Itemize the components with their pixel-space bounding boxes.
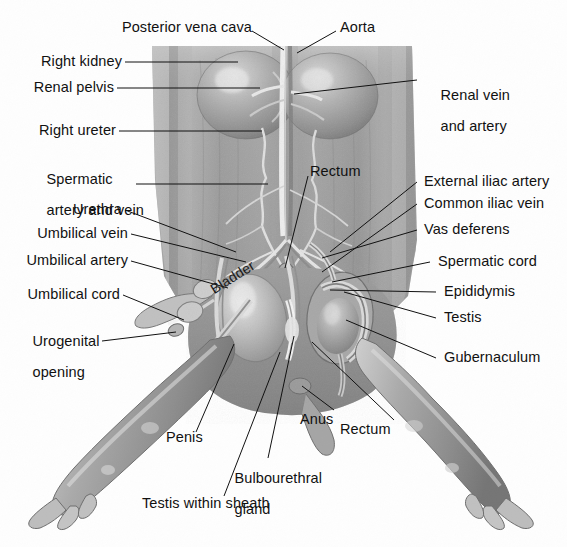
label-umbilical-cord: Umbilical cord (0, 287, 120, 303)
label-testis: Testis (444, 310, 482, 326)
label-rectum-lower: Rectum (340, 422, 391, 438)
label-gubernaculum: Gubernaculum (444, 350, 540, 366)
label-urogenital-opening-line1: Urogenital (33, 333, 100, 349)
label-urethra: Urethra (0, 202, 122, 218)
label-spermatic-artery-and-vein: Spermatic artery and vein (30, 156, 144, 234)
label-bulbourethral-gland-line1: Bulbourethral (235, 470, 323, 486)
label-spermatic-cord: Spermatic cord (438, 254, 537, 270)
label-spermatic-artery-and-vein-line1: Spermatic (47, 171, 113, 187)
label-renal-vein-and-artery: Renal vein and artery (424, 72, 510, 150)
label-rectum-upper: Rectum (310, 164, 361, 180)
label-renal-vein-and-artery-line1: Renal vein (441, 87, 511, 103)
label-posterior-vena-cava: Posterior vena cava (0, 20, 252, 36)
label-penis: Penis (166, 430, 203, 446)
label-umbilical-artery: Umbilical artery (0, 253, 128, 269)
label-external-iliac-artery: External iliac artery (424, 174, 549, 190)
label-bulbourethral-gland: Bulbourethral gland (218, 455, 322, 533)
label-urogenital-opening-line2: opening (33, 364, 85, 380)
label-testis-within-sheath: Testis within sheath (142, 496, 270, 512)
label-vas-deferens: Vas deferens (424, 222, 510, 238)
label-epididymis: Epididymis (444, 284, 515, 300)
anatomy-figure: Posterior vena cava Aorta Right kidney R… (0, 0, 567, 547)
label-common-iliac-vein: Common iliac vein (424, 196, 544, 212)
label-anus: Anus (300, 412, 333, 428)
label-urogenital-opening: Urogenital opening (16, 318, 100, 396)
label-right-kidney: Right kidney (0, 54, 122, 70)
label-aorta: Aorta (340, 20, 375, 36)
label-renal-pelvis: Renal pelvis (0, 80, 114, 96)
label-umbilical-vein: Umbilical vein (0, 226, 128, 242)
label-renal-vein-and-artery-line2: and artery (441, 118, 507, 134)
label-right-ureter: Right ureter (0, 123, 116, 139)
